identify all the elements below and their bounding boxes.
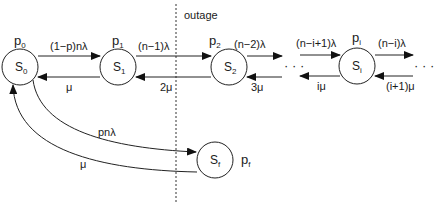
prob-p0: p0	[14, 33, 26, 50]
state-s1: S1 p1	[100, 33, 136, 85]
markov-chain-diagram: outage S0 p0 S1 p1 S2 p2 Si pi Sf pf (1−…	[0, 0, 436, 204]
ellipsis-mid: · · ·	[284, 58, 304, 73]
label-sf-s0: μ	[80, 158, 86, 170]
prob-pf: pf	[241, 152, 251, 169]
prob-pi: pi	[352, 30, 361, 47]
label-s1-s2: (n−1)λ	[138, 40, 170, 52]
label-si-next: (n−i)λ	[378, 37, 406, 49]
label-s2-s1: 2μ	[160, 81, 172, 93]
label-s0-s1: (1−p)nλ	[50, 40, 88, 52]
label-si-prev: iμ	[317, 80, 326, 92]
state-sf: Sf pf	[197, 142, 251, 178]
ellipsis-right: · · ·	[414, 58, 434, 73]
label-next-si: (i+1)μ	[386, 80, 415, 92]
prob-p2: p2	[209, 33, 221, 50]
label-s1-s0: μ	[66, 81, 72, 93]
label-s0-sf: pnλ	[98, 126, 116, 138]
prob-p1: p1	[112, 33, 124, 50]
label-next-s2: 3μ	[251, 81, 263, 93]
outage-label: outage	[184, 9, 218, 21]
label-prev-si: (n−i+1)λ	[296, 37, 337, 49]
state-si: Si pi	[339, 30, 375, 84]
state-s0: S0 p0	[2, 33, 38, 85]
label-s2-next: (n−2)λ	[234, 38, 266, 50]
